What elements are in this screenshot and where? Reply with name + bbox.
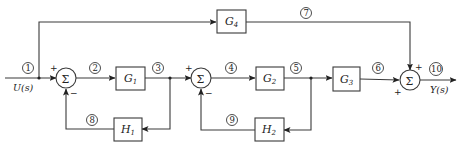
output-label: Y(s) xyxy=(430,84,449,95)
g3-to-s3-wire xyxy=(360,79,399,80)
signal-node-9: 9 xyxy=(227,115,238,126)
h1-feedback-input-wire xyxy=(142,78,170,129)
svg-text:5: 5 xyxy=(294,63,299,73)
plus-sign: + xyxy=(185,63,193,73)
branch-point-3 xyxy=(168,76,171,79)
svg-text:7: 7 xyxy=(304,8,309,18)
svg-text:10: 10 xyxy=(431,64,442,74)
branch-point-1 xyxy=(37,76,40,79)
h2-feedback-input-wire xyxy=(284,78,311,130)
block-diagram: G4 G1 G2 G3 H1 H2 Σ + − Σ + − Σ + + xyxy=(0,0,459,154)
signal-node-10: 10 xyxy=(430,63,443,76)
svg-text:9: 9 xyxy=(230,115,235,125)
svg-text:Σ: Σ xyxy=(197,73,205,86)
g4-output-wire xyxy=(246,22,410,70)
svg-text:2: 2 xyxy=(93,63,98,73)
plus-sign: + xyxy=(394,87,402,97)
signal-node-7: 7 xyxy=(301,8,312,19)
svg-text:8: 8 xyxy=(90,115,95,125)
signal-node-4: 4 xyxy=(226,63,237,74)
signal-node-3: 3 xyxy=(153,63,164,74)
signal-node-6: 6 xyxy=(373,63,384,74)
plus-sign: + xyxy=(50,63,58,73)
signal-node-1: 1 xyxy=(23,63,34,74)
minus-sign: − xyxy=(70,88,78,98)
minus-sign: − xyxy=(205,88,213,98)
branch-point-5 xyxy=(309,76,312,79)
signal-node-2: 2 xyxy=(90,63,101,74)
summing-junction-1: Σ + − xyxy=(50,63,78,98)
block-g1: G1 xyxy=(116,67,145,90)
signal-node-5: 5 xyxy=(291,63,302,74)
block-h2: H2 xyxy=(255,118,284,141)
svg-text:4: 4 xyxy=(229,63,234,73)
input-label: U(s) xyxy=(13,82,34,93)
svg-text:Σ: Σ xyxy=(406,75,414,88)
plus-sign: + xyxy=(415,62,423,72)
svg-text:6: 6 xyxy=(376,63,381,73)
svg-text:1: 1 xyxy=(26,63,31,73)
block-g3: G3 xyxy=(333,67,360,91)
summing-junction-2: Σ + − xyxy=(185,63,213,98)
block-h1: H1 xyxy=(114,118,142,141)
svg-text:Σ: Σ xyxy=(62,73,70,86)
block-g2: G2 xyxy=(256,67,284,90)
signal-node-8: 8 xyxy=(87,115,98,126)
svg-text:3: 3 xyxy=(156,63,161,73)
block-g4: G4 xyxy=(217,10,246,33)
